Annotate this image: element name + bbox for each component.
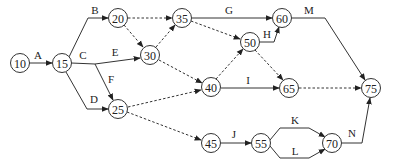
node-10: 10 bbox=[11, 54, 30, 73]
edge-b bbox=[69, 18, 108, 57]
network-diagram: A B C E F D G H I M J K L N 10 15 20 30 … bbox=[0, 0, 394, 167]
label-c: C bbox=[79, 49, 86, 61]
label-l: L bbox=[292, 145, 299, 157]
label-d: D bbox=[90, 93, 98, 105]
label-k: K bbox=[291, 114, 299, 126]
edge-dummy-50-65 bbox=[255, 50, 283, 80]
edge-n bbox=[342, 98, 370, 143]
node-70: 70 bbox=[323, 134, 342, 153]
label-e: E bbox=[112, 46, 119, 58]
node-label: 70 bbox=[326, 137, 338, 151]
node-label: 55 bbox=[255, 137, 267, 151]
node-60: 60 bbox=[273, 9, 292, 28]
edge-dummy-20-30 bbox=[124, 25, 143, 47]
label-n: N bbox=[348, 127, 356, 139]
label-a: A bbox=[34, 49, 42, 61]
node-15: 15 bbox=[53, 54, 72, 73]
edge-labels: A B C E F D G H I M J K L N bbox=[34, 4, 356, 157]
label-b: B bbox=[91, 4, 98, 16]
node-label: 20 bbox=[112, 12, 124, 26]
edge-dummy-25-40 bbox=[128, 90, 201, 107]
node-45: 45 bbox=[202, 134, 221, 153]
nodes: 10 15 20 30 25 35 40 50 60 65 75 45 55 7… bbox=[11, 9, 381, 153]
node-label: 15 bbox=[56, 57, 68, 71]
node-label: 60 bbox=[276, 12, 288, 26]
label-i: I bbox=[246, 74, 250, 86]
node-label: 45 bbox=[205, 137, 217, 151]
node-label: 40 bbox=[205, 81, 217, 95]
edge-k bbox=[270, 128, 325, 140]
node-25: 25 bbox=[109, 100, 128, 119]
node-55: 55 bbox=[252, 134, 271, 153]
node-20: 20 bbox=[109, 9, 128, 28]
node-label: 35 bbox=[176, 12, 188, 26]
node-label: 25 bbox=[112, 103, 124, 117]
edge-dummy-40-50 bbox=[216, 49, 243, 79]
label-h: H bbox=[263, 28, 271, 40]
edges bbox=[29, 18, 370, 158]
label-m: M bbox=[304, 4, 314, 16]
node-75: 75 bbox=[362, 79, 381, 98]
edge-dummy-30-35 bbox=[156, 25, 175, 47]
edge-dummy-35-50 bbox=[191, 21, 240, 39]
node-30: 30 bbox=[141, 46, 160, 65]
edge-dummy-30-40 bbox=[159, 60, 202, 83]
node-35: 35 bbox=[173, 9, 192, 28]
label-j: J bbox=[232, 128, 237, 140]
edge-m bbox=[292, 18, 365, 80]
node-label: 30 bbox=[144, 49, 156, 63]
node-65: 65 bbox=[280, 79, 299, 98]
node-label: 75 bbox=[365, 82, 377, 96]
node-label: 10 bbox=[14, 57, 26, 71]
node-label: 50 bbox=[244, 36, 256, 50]
node-50: 50 bbox=[241, 33, 260, 52]
node-label: 65 bbox=[283, 82, 295, 96]
node-40: 40 bbox=[202, 78, 221, 97]
label-f: F bbox=[108, 73, 114, 85]
edge-dummy-25-45 bbox=[127, 112, 201, 140]
label-g: G bbox=[225, 4, 233, 16]
